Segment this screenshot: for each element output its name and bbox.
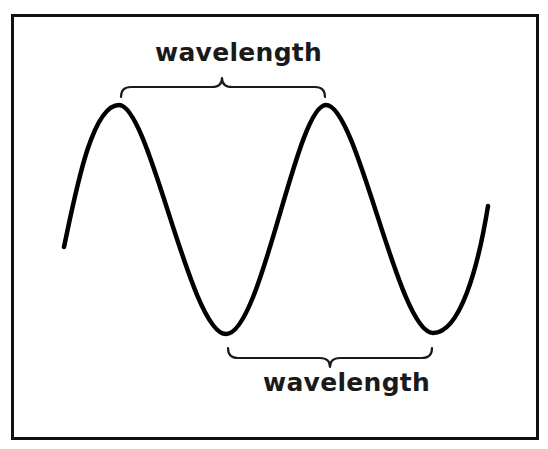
wavelength-brace-bottom xyxy=(228,348,432,367)
sine-wave xyxy=(64,105,488,334)
wavelength-label-top: wavelength xyxy=(155,40,322,65)
wavelength-brace-top xyxy=(121,78,325,97)
wavelength-label-bottom: wavelength xyxy=(263,370,430,395)
